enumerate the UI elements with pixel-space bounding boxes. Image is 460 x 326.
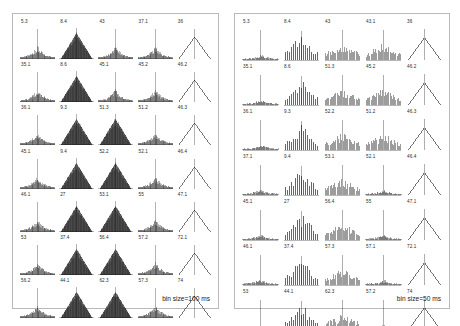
correlogram-cell: 8.6 (58, 63, 95, 106)
correlogram-cell: 46.4 (405, 155, 444, 200)
correlogram-plot (137, 285, 174, 322)
correlogram-cell: 51.2 (364, 110, 403, 155)
correlogram-panel-left: 5.38.44337.13635.18.645.145.246.236.19.3… (12, 13, 219, 309)
correlogram-plot (58, 285, 95, 322)
correlogram-plot (241, 116, 280, 155)
correlogram-plot (282, 26, 321, 65)
correlogram-plot (405, 251, 444, 290)
correlogram-cell: 52.2 (97, 150, 134, 193)
correlogram-cell: 47.1 (176, 193, 213, 236)
correlogram-cell: 37.1 (241, 155, 280, 200)
correlogram-cell: 55 (137, 193, 174, 236)
correlogram-cell: 52.1 (137, 150, 174, 193)
correlogram-plot (137, 199, 174, 236)
correlogram-plot (364, 71, 403, 110)
correlogram-cell: 5.3 (19, 20, 56, 63)
correlogram-plot (282, 206, 321, 245)
correlogram-cell: 53.1 (323, 155, 362, 200)
correlogram-cell: 8.4 (58, 20, 95, 63)
correlogram-cell: 46.1 (19, 193, 56, 236)
correlogram-plot (19, 199, 56, 236)
correlogram-plot (137, 69, 174, 106)
correlogram-cell: 51.2 (137, 106, 174, 149)
correlogram-cell: 46.2 (405, 65, 444, 110)
correlogram-cell: 36.1 (19, 106, 56, 149)
correlogram-plot (241, 161, 280, 200)
correlogram-cell: 45.1 (97, 63, 134, 106)
correlogram-cell: 44.1 (282, 290, 321, 326)
correlogram-cell: 35.1 (19, 63, 56, 106)
correlogram-plot (58, 199, 95, 236)
correlogram-plot (137, 242, 174, 279)
correlogram-cell: 43.1 (364, 20, 403, 65)
correlogram-plot (364, 206, 403, 245)
correlogram-cell: 52.2 (323, 110, 362, 155)
correlogram-plot (323, 161, 362, 200)
correlogram-cell: 53 (241, 290, 280, 326)
correlogram-plot (323, 206, 362, 245)
correlogram-plot (176, 69, 213, 106)
correlogram-plot (97, 69, 134, 106)
correlogram-cell: 36 (176, 20, 213, 63)
correlogram-cell: 8.4 (282, 20, 321, 65)
correlogram-plot (176, 112, 213, 149)
correlogram-plot (97, 199, 134, 236)
correlogram-cell: 45.1 (241, 200, 280, 245)
correlogram-cell: 9.4 (282, 155, 321, 200)
correlogram-plot (241, 296, 280, 326)
correlogram-cell: 27 (58, 193, 95, 236)
correlogram-cell: 27 (282, 200, 321, 245)
correlogram-cell: 46.2 (176, 63, 213, 106)
correlogram-plot (19, 69, 56, 106)
correlogram-plot (176, 199, 213, 236)
correlogram-plot (282, 251, 321, 290)
correlogram-cell: 46.3 (176, 106, 213, 149)
correlogram-cell: 37.4 (282, 245, 321, 290)
correlogram-plot (176, 285, 213, 322)
correlogram-plot (323, 116, 362, 155)
correlogram-plot (137, 156, 174, 193)
correlogram-plot (19, 112, 56, 149)
correlogram-plot (176, 26, 213, 63)
correlogram-plot (282, 296, 321, 326)
correlogram-grid-right: 5.38.44343.13635.18.651.345.246.236.19.3… (235, 14, 449, 308)
correlogram-cell: 72.1 (405, 245, 444, 290)
correlogram-cell: 9.3 (282, 110, 321, 155)
correlogram-plot (176, 156, 213, 193)
correlogram-cell: 37.1 (137, 20, 174, 63)
correlogram-cell: 57.1 (364, 245, 403, 290)
panel-right-caption: bin size=50 ms (397, 295, 441, 302)
correlogram-cell: 57.2 (137, 236, 174, 279)
correlogram-cell: 37.4 (58, 236, 95, 279)
correlogram-plot (19, 26, 56, 63)
correlogram-cell: 45.2 (137, 63, 174, 106)
correlogram-plot (405, 161, 444, 200)
correlogram-plot (364, 26, 403, 65)
correlogram-plot (323, 296, 362, 326)
correlogram-cell: 9.4 (58, 150, 95, 193)
correlogram-plot (137, 26, 174, 63)
correlogram-cell: 57.3 (323, 245, 362, 290)
correlogram-plot (405, 26, 444, 65)
correlogram-cell: 51.3 (97, 106, 134, 149)
correlogram-plot (282, 71, 321, 110)
correlogram-plot (405, 116, 444, 155)
correlogram-cell: 9.3 (58, 106, 95, 149)
correlogram-plot (137, 112, 174, 149)
correlogram-plot (58, 26, 95, 63)
correlogram-cell: 56.2 (19, 279, 56, 322)
correlogram-cell: 45.2 (364, 65, 403, 110)
correlogram-plot (97, 285, 134, 322)
correlogram-cell: 46.4 (176, 150, 213, 193)
correlogram-cell: 5.3 (241, 20, 280, 65)
correlogram-plot (176, 242, 213, 279)
correlogram-plot (405, 206, 444, 245)
correlogram-cell: 43 (97, 20, 134, 63)
correlogram-cell: 43 (323, 20, 362, 65)
correlogram-plot (58, 69, 95, 106)
correlogram-cell: 45.1 (19, 150, 56, 193)
correlogram-plot (19, 285, 56, 322)
correlogram-plot (282, 161, 321, 200)
panel-left-caption: bin size=100 ms (162, 295, 210, 302)
correlogram-plot (282, 116, 321, 155)
